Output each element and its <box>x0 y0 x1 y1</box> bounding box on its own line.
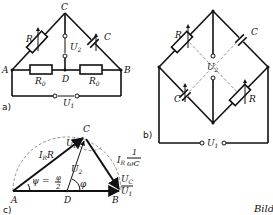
resistor-r0-left <box>30 65 52 74</box>
angle-psi-label: ψ = <box>32 176 49 186</box>
vector-u2-label: U2 <box>71 164 83 175</box>
panel-b-label: b) <box>143 130 152 140</box>
voltage-u2-b-label: U2 <box>207 62 219 73</box>
panel-a-label: a) <box>2 102 11 112</box>
node-c-label: C <box>61 2 68 12</box>
vector-ur-label: UR <box>66 138 79 149</box>
node-a-label: A <box>1 65 9 75</box>
vector-u1-label: U1 <box>121 186 132 197</box>
resistor-r-label: R <box>25 34 33 44</box>
node-b-label: B <box>123 65 131 75</box>
panel-a-bridge: C A B D R C R0 R0 U2 U1 a) <box>1 2 131 112</box>
resistor-r0-right <box>80 65 102 74</box>
angle-phi-label: φ <box>80 179 87 189</box>
psi-fraction-num: φ <box>56 174 61 182</box>
point-a-label: A <box>10 195 18 205</box>
resistor-r0-right-label: R0 <box>88 76 100 87</box>
bridge-circuit-figure: C A B D R C R0 R0 U2 U1 a) <box>0 0 273 215</box>
resistor-r0-left-label: R0 <box>34 76 46 87</box>
xc-denominator: ωC <box>127 159 140 168</box>
psi-fraction-den: 2 <box>55 183 61 191</box>
vector-ir-r-label: IRR <box>38 150 54 161</box>
voltage-u1-b-label: U1 <box>207 138 218 149</box>
vector-ir-xc-label: IR <box>116 155 126 166</box>
capacitor-c-label: C <box>104 32 111 42</box>
vector-uc-label: UC <box>121 174 134 185</box>
voltage-u1-label: U1 <box>63 98 74 109</box>
panel-c-phasor-diagram: C A D B IRR UR U2 φ ψ = φ 2 IR 1 ωC UC U… <box>3 124 141 215</box>
capacitor-c-bottom-label: C <box>174 94 181 104</box>
figure-caption: Bild <box>253 203 273 214</box>
panel-b-bridge: R C C R U2 U1 b) <box>143 10 270 150</box>
point-c-label: C <box>83 124 90 134</box>
node-d-label: D <box>61 74 69 84</box>
capacitor-c-top-label: C <box>251 27 258 37</box>
voltage-u2-label: U2 <box>70 42 82 53</box>
point-d-label: D <box>63 195 71 205</box>
resistor-r-top-label: R <box>174 30 182 40</box>
xc-numerator: 1 <box>132 148 137 157</box>
point-b-label: B <box>111 195 119 205</box>
resistor-r-bottom-label: R <box>248 94 256 104</box>
panel-c-label: c) <box>3 205 11 215</box>
